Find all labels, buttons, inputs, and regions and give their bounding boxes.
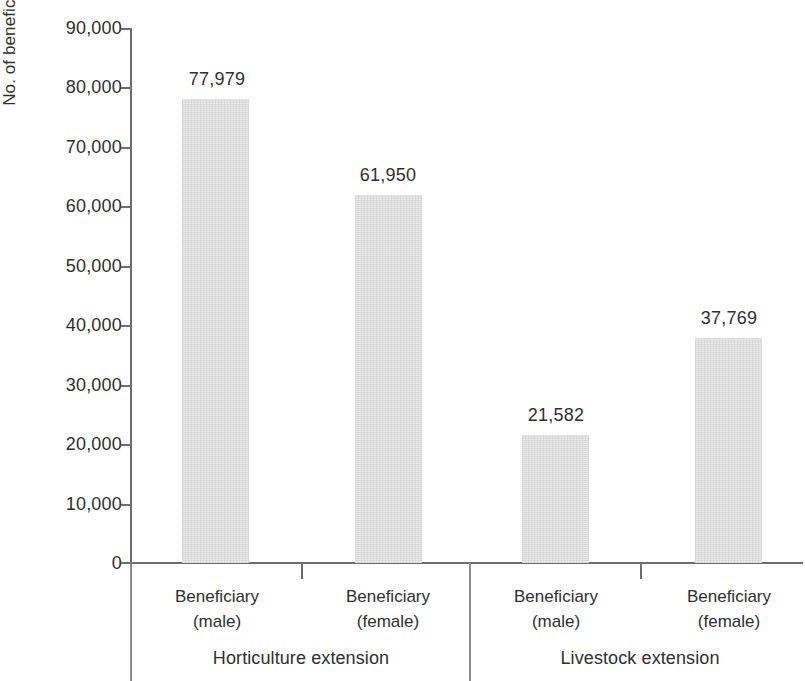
y-tick-mark-80000 xyxy=(121,87,131,89)
y-tick-mark-60000 xyxy=(121,206,131,208)
bar-horticulture-female[interactable] xyxy=(355,195,422,563)
x-category-line2: (male) xyxy=(132,609,302,634)
x-category-label-horticulture-female: Beneficiary (female) xyxy=(303,584,473,634)
x-category-line1: Beneficiary xyxy=(175,587,259,606)
y-tick-label-50000: 50,000 xyxy=(22,256,122,277)
y-tick-label-20000: 20,000 xyxy=(22,434,122,455)
group-label-livestock: Livestock extension xyxy=(470,648,805,669)
y-tick-mark-50000 xyxy=(121,266,131,268)
bar-livestock-female[interactable] xyxy=(695,338,762,563)
bar-value-label-horticulture-female: 61,950 xyxy=(303,165,473,186)
y-tick-mark-10000 xyxy=(121,504,131,506)
bar-chart: No. of beneficiaries 90,000 80,000 70,00… xyxy=(0,0,805,681)
y-tick-label-80000: 80,000 xyxy=(22,77,122,98)
bar-horticulture-male[interactable] xyxy=(182,99,249,563)
y-tick-label-70000: 70,000 xyxy=(22,137,122,158)
y-tick-label-30000: 30,000 xyxy=(22,375,122,396)
y-tick-mark-20000 xyxy=(121,444,131,446)
bar-value-label-livestock-male: 21,582 xyxy=(471,405,641,426)
y-tick-mark-40000 xyxy=(121,325,131,327)
x-tick-horticulture-mid xyxy=(301,563,303,579)
y-tick-mark-30000 xyxy=(121,385,131,387)
y-tick-label-10000: 10,000 xyxy=(22,494,122,515)
x-category-line1: Beneficiary xyxy=(346,587,430,606)
x-category-line2: (female) xyxy=(303,609,473,634)
y-axis-tick-labels: 90,000 80,000 70,000 60,000 50,000 40,00… xyxy=(16,0,122,681)
y-tick-label-40000: 40,000 xyxy=(22,315,122,336)
x-category-label-horticulture-male: Beneficiary (male) xyxy=(132,584,302,634)
y-tick-label-90000: 90,000 xyxy=(22,18,122,39)
x-category-line2: (male) xyxy=(471,609,641,634)
x-tick-livestock-mid xyxy=(640,563,642,579)
y-tick-mark-70000 xyxy=(121,147,131,149)
y-tick-mark-90000 xyxy=(121,28,131,30)
group-label-horticulture: Horticulture extension xyxy=(131,648,471,669)
y-tick-label-0: 0 xyxy=(22,553,122,574)
bar-value-label-livestock-female: 37,769 xyxy=(644,308,805,329)
x-category-label-livestock-male: Beneficiary (male) xyxy=(471,584,641,634)
y-tick-label-60000: 60,000 xyxy=(22,196,122,217)
plot-area xyxy=(131,28,803,563)
bar-livestock-male[interactable] xyxy=(522,435,589,563)
x-category-line2: (female) xyxy=(644,609,805,634)
bar-value-label-horticulture-male: 77,979 xyxy=(132,69,302,90)
x-category-line1: Beneficiary xyxy=(687,587,771,606)
x-category-line1: Beneficiary xyxy=(514,587,598,606)
x-category-label-livestock-female: Beneficiary (female) xyxy=(644,584,805,634)
